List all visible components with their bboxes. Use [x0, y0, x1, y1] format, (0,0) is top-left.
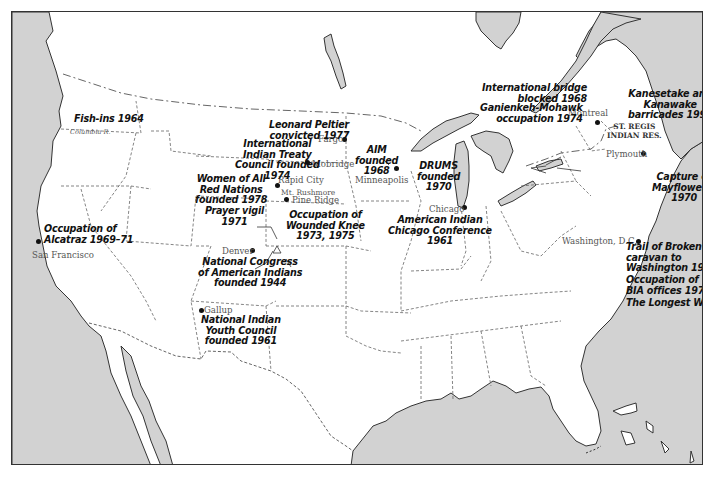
pine-ridge-dot — [284, 197, 289, 202]
event-alcatraz: Occupation of Alcatraz 1969–71 — [44, 224, 133, 245]
event-longest-walk: The Longest Walk 1978 — [626, 298, 703, 309]
mt-rushmore-icon — [273, 246, 281, 253]
city-label-minneapolis: Minneapolis — [355, 175, 408, 185]
state-borders — [61, 101, 616, 401]
event-international-bridge: International bridge blocked 1968 — [482, 83, 587, 104]
event-mayflower: Capture of Mayflower II 1970 — [652, 172, 703, 204]
city-label-chicago: Chicago — [429, 204, 464, 214]
event-ganienkeh: Ganienkeh-Mohawk occupation 1974 — [480, 103, 583, 124]
event-aim: AIM founded 1968 — [355, 145, 398, 177]
event-broken-treaties: Trail of Broken Treaties caravan to Wash… — [626, 242, 703, 274]
event-fish-ins: Fish-ins 1964 — [74, 114, 144, 125]
event-prayer-vigil: Prayer vigil 1971 — [205, 206, 264, 227]
event-niyc: National Indian Youth Council founded 19… — [201, 315, 281, 347]
event-warn: Women of All Red Nations founded 1978 — [195, 174, 267, 206]
event-drums: DRUMS founded 1970 — [417, 161, 460, 193]
st-regis-label: ST. REGIS INDIAN RES. — [607, 122, 662, 140]
city-label-plymouth: Plymouth — [606, 149, 647, 159]
lake-superior — [411, 113, 479, 151]
san-francisco-dot — [36, 239, 41, 244]
montreal-dot — [595, 120, 600, 125]
lake-ontario — [536, 159, 563, 171]
columbia-river-label: Columbia R. — [70, 128, 110, 136]
event-bia: Occupation of BIA offices 1972 — [626, 275, 703, 296]
event-ncai: National Congress of American Indians fo… — [198, 257, 302, 289]
canada-us-border-east — [526, 126, 616, 166]
city-label-san-francisco: San Francisco — [32, 250, 94, 260]
event-chicago-conference: American Indian Chicago Conference 1961 — [388, 215, 492, 247]
event-wounded-knee: Occupation of Wounded Knee 1973, 1975 — [286, 210, 365, 242]
city-label-pine-ridge: Pine Ridge — [292, 195, 339, 205]
event-kanesetake: Kanesetake and Kanawake barricades 1990 — [628, 89, 703, 121]
lake-winnipeg — [324, 34, 346, 89]
lake-huron — [471, 131, 513, 173]
hudson-bay — [476, 12, 521, 49]
city-label-denver: Denver — [222, 246, 254, 256]
map-frame: San Francisco Fargo Mobridge Rapid City … — [11, 11, 703, 465]
lake-erie — [498, 181, 536, 206]
